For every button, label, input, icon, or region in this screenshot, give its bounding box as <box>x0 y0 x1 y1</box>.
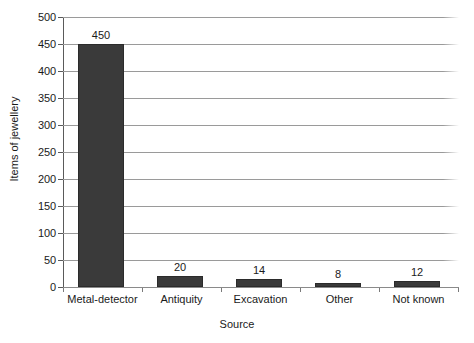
x-tick-mark <box>458 288 459 292</box>
plot-area: 450 20 14 8 12 <box>63 17 459 287</box>
bar-excavation[interactable] <box>236 279 282 287</box>
bar-chart: 500 450 400 350 300 250 200 150 100 50 0… <box>0 0 474 343</box>
y-tick-label: 0 <box>10 282 56 293</box>
x-category-label-antiquity: Antiquity <box>142 293 221 306</box>
x-tick-mark <box>63 288 64 292</box>
y-tick-label: 500 <box>10 12 56 23</box>
x-tick-mark <box>300 288 301 292</box>
x-tick-mark <box>379 288 380 292</box>
y-tick-label: 50 <box>10 255 56 266</box>
bar-value-other: 8 <box>315 268 361 280</box>
x-tick-mark <box>221 288 222 292</box>
y-tick-label: 450 <box>10 39 56 50</box>
bar-value-excavation: 14 <box>236 264 282 276</box>
x-category-label-not-known: Not known <box>379 293 458 306</box>
x-axis-line <box>63 287 459 288</box>
y-tick-label: 400 <box>10 66 56 77</box>
bar-antiquity[interactable] <box>157 276 203 287</box>
x-category-label-excavation: Excavation <box>221 293 300 306</box>
x-category-label-metal-detector: Metal-detector <box>63 293 142 306</box>
x-category-label-other: Other <box>300 293 379 306</box>
x-axis-title: Source <box>0 318 474 331</box>
bar-metal-detector[interactable] <box>78 44 124 287</box>
y-tick-label: 100 <box>10 228 56 239</box>
bar-value-not-known: 12 <box>394 266 440 278</box>
bar-value-antiquity: 20 <box>157 261 203 273</box>
y-tick-label: 150 <box>10 201 56 212</box>
gridline-500 <box>63 17 459 18</box>
x-tick-mark <box>142 288 143 292</box>
y-axis-title: Items of jewellery <box>8 79 20 199</box>
bar-value-metal-detector: 450 <box>78 29 124 41</box>
